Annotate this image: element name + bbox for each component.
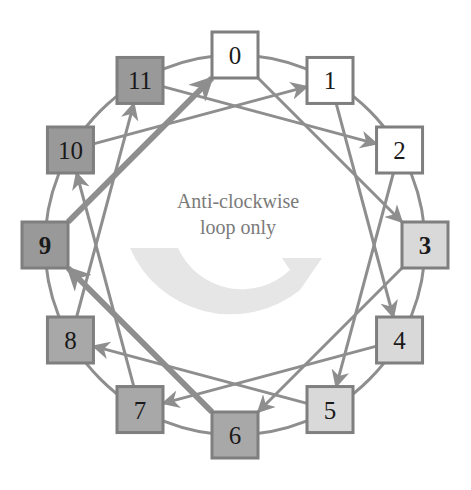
node-label: 1 (324, 67, 337, 94)
node-label: 5 (324, 397, 337, 424)
node-0: 0 (212, 32, 258, 78)
node-label: 6 (229, 422, 242, 449)
node-10: 10 (47, 127, 93, 173)
node-label: 4 (393, 327, 406, 354)
node-2: 2 (377, 127, 423, 173)
ring-circle (45, 55, 425, 435)
node-5: 5 (307, 387, 353, 433)
node-8: 8 (47, 317, 93, 363)
node-label: 11 (128, 67, 152, 94)
caption-line-2: loop only (200, 216, 276, 239)
node-7: 7 (117, 387, 163, 433)
caption-line-1: Anti-clockwise (177, 190, 299, 212)
node-label: 8 (64, 327, 77, 354)
node-3: 3 (402, 222, 448, 268)
node-label: 9 (39, 232, 52, 259)
node-label: 3 (419, 232, 432, 259)
node-9: 9 (22, 222, 68, 268)
node-label: 7 (134, 397, 147, 424)
loop-diagram: 01234567891011 Anti-clockwise loop only (0, 0, 471, 490)
anticlockwise-arrow-icon (130, 248, 322, 314)
node-label: 0 (229, 42, 242, 69)
node-4: 4 (377, 317, 423, 363)
node-label: 2 (393, 137, 406, 164)
node-label: 10 (58, 137, 83, 164)
nodes-layer: 01234567891011 (22, 32, 448, 458)
edges-layer (68, 78, 402, 412)
node-11: 11 (117, 57, 163, 103)
node-6: 6 (212, 412, 258, 458)
node-1: 1 (307, 57, 353, 103)
